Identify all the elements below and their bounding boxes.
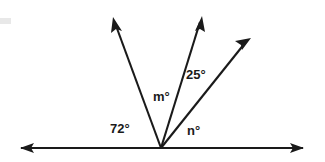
- ray-middle-arrow-icon: [195, 16, 205, 32]
- angle-diagram: 72° m° 25° n°: [0, 0, 325, 162]
- ray-right-arrow-icon: [235, 38, 251, 50]
- ray-left-arrow-icon: [111, 17, 122, 33]
- angle-label-72: 72°: [110, 122, 130, 135]
- angle-label-25: 25°: [186, 68, 206, 81]
- angle-label-n: n°: [187, 124, 200, 137]
- angle-label-m: m°: [153, 90, 170, 103]
- ray-right: [161, 43, 245, 148]
- diagram-canvas: [0, 0, 325, 162]
